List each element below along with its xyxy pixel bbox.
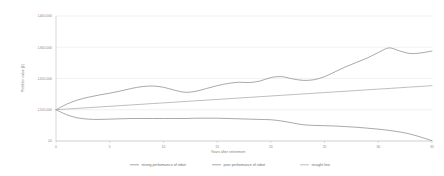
x-tick-label: 35 (430, 145, 434, 149)
x-tick-label: 30 (376, 145, 380, 149)
x-tick-label: 10 (162, 145, 166, 149)
x-tick-label: 0 (55, 145, 57, 149)
x-tick-label: 5 (109, 145, 111, 149)
x-tick-label: 20 (269, 145, 273, 149)
chart-canvas: £0£100,000£200,000£300,000£400,000 05101… (0, 0, 444, 176)
y-tick-label: £300,000 (38, 46, 52, 50)
y-axis-title: Portfolio value (£) (21, 64, 25, 92)
x-tick-label: 15 (215, 145, 219, 149)
legend-label: straight line (312, 163, 330, 167)
legend-label: poor performance of robot (224, 163, 266, 167)
legend-label: strong performance of robot (142, 163, 186, 167)
x-tick-label: 25 (323, 145, 327, 149)
line-chart: £0£100,000£200,000£300,000£400,000 05101… (0, 0, 444, 176)
y-tick-label: £0 (48, 139, 52, 143)
y-tick-label: £400,000 (38, 14, 52, 18)
x-axis-title: Years after retirement (211, 150, 245, 154)
y-tick-label: £200,000 (38, 77, 52, 81)
y-tick-label: £100,000 (38, 108, 52, 112)
